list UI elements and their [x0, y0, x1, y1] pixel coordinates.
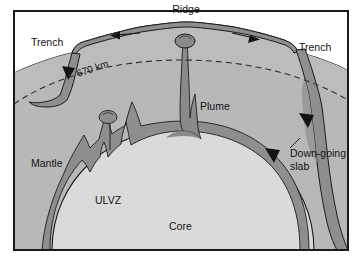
figure-root: Ridge Trench Trench 670 km Plume Mantle … [0, 0, 362, 268]
diagram-content [14, 22, 348, 250]
label-down-going-slab-line2: slab [290, 160, 309, 172]
label-core: Core [169, 220, 192, 232]
label-down-going-slab-line1: Down-going [290, 147, 346, 159]
label-trench-right: Trench [299, 41, 331, 53]
label-trench-left: Trench [31, 36, 63, 48]
label-plume: Plume [200, 100, 230, 112]
mantle-cross-section-diagram: Ridge Trench Trench 670 km Plume Mantle … [0, 0, 362, 268]
label-ridge: Ridge [172, 3, 200, 15]
label-mantle: Mantle [31, 157, 63, 169]
label-ulvz: ULVZ [95, 194, 122, 206]
